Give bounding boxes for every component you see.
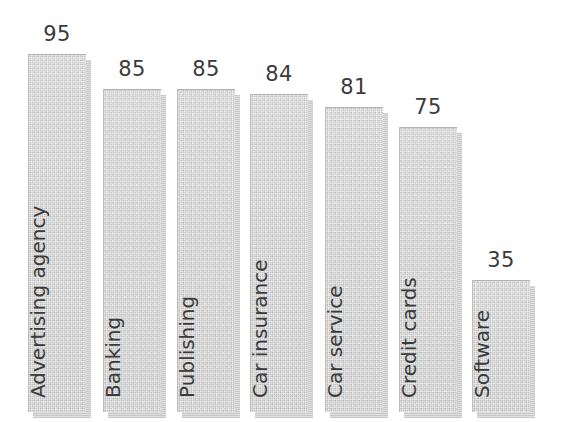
- bar-value-label: 35: [472, 250, 530, 271]
- bar-category-label: Publishing: [177, 296, 197, 398]
- bar-group[interactable]: 81 Car service: [325, 107, 383, 412]
- bar-category-label: Car service: [325, 286, 345, 398]
- bar-group[interactable]: 85 Banking: [103, 89, 161, 412]
- bar-group[interactable]: 35 Software: [472, 280, 530, 412]
- bar-value-label: 85: [103, 59, 161, 80]
- bar-chart: 95 Advertising agency 85 Banking 85: [0, 0, 564, 422]
- bar-group[interactable]: 84 Car insurance: [250, 94, 308, 412]
- bar-group[interactable]: 85 Publishing: [177, 89, 235, 412]
- bar-value-label: 81: [325, 77, 383, 98]
- bar-value-label: 95: [28, 24, 86, 45]
- bar-group[interactable]: 75 Credit cards: [399, 127, 457, 412]
- bar-value-label: 85: [177, 59, 235, 80]
- bar-category-label: Credit cards: [399, 277, 419, 398]
- bar-category-label: Car insurance: [250, 259, 270, 398]
- bar-category-label: Software: [472, 310, 492, 398]
- bar-group[interactable]: 95 Advertising agency: [28, 54, 86, 412]
- bar-value-label: 75: [399, 97, 457, 118]
- bar-category-label: Advertising agency: [28, 206, 48, 398]
- plot-area: 95 Advertising agency 85 Banking 85: [0, 0, 564, 422]
- bar-category-label: Banking: [103, 317, 123, 398]
- bar-value-label: 84: [250, 64, 308, 85]
